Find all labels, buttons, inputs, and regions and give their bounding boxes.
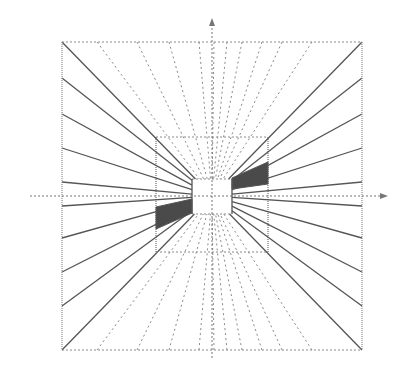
right-wall-ray bbox=[229, 42, 362, 179]
axes bbox=[30, 18, 388, 360]
x-axis-arrow-icon bbox=[380, 193, 388, 199]
right-wall-ray bbox=[232, 197, 362, 206]
right-wall-ray bbox=[232, 78, 362, 180]
ceiling-ray bbox=[97, 42, 199, 179]
right-wall-ray bbox=[232, 206, 362, 272]
perspective-diagram bbox=[0, 0, 406, 369]
ceiling-ray bbox=[137, 42, 204, 179]
ceiling-ray bbox=[212, 42, 214, 179]
right-wall-ray bbox=[232, 211, 362, 306]
ceiling-ray bbox=[199, 42, 211, 179]
floor-ray bbox=[224, 214, 312, 350]
floor-ray bbox=[216, 214, 242, 350]
floor-ray bbox=[199, 214, 210, 350]
floor-ray bbox=[214, 214, 227, 350]
left-wall-ray bbox=[62, 114, 192, 185]
perspective-grid-canvas bbox=[0, 0, 406, 369]
left-wall-ray bbox=[62, 211, 192, 306]
floor-ray bbox=[218, 214, 262, 350]
y-axis-arrow-icon bbox=[209, 18, 215, 26]
ceiling-ray bbox=[223, 42, 312, 179]
ceiling-ray bbox=[215, 42, 242, 179]
floor-ray bbox=[137, 214, 203, 350]
right-wall-ray bbox=[230, 214, 362, 350]
left-wall-ray bbox=[62, 78, 192, 180]
ceiling-ray bbox=[218, 42, 262, 179]
floor-ray bbox=[220, 214, 282, 350]
ceiling-ray bbox=[214, 42, 227, 179]
ceiling-ray bbox=[220, 42, 282, 179]
floor-ray bbox=[97, 214, 199, 350]
left-wall-ray bbox=[62, 42, 195, 179]
right-wall-ray bbox=[232, 202, 362, 238]
